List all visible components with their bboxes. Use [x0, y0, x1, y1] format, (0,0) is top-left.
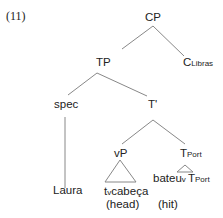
node-tbar: T' [148, 98, 157, 110]
node-bateu: bateuv [153, 172, 186, 186]
gloss-head: (head) [106, 198, 139, 210]
node-laura: Laura [53, 184, 82, 196]
node-spec: spec [54, 98, 78, 110]
example-number: (11) [6, 9, 26, 24]
node-vp: vP [114, 147, 127, 159]
node-tport-2: TPort [188, 172, 210, 186]
gloss-hit: (hit) [158, 198, 178, 210]
node-tport: TPort [180, 147, 202, 161]
node-tp: TP [96, 56, 111, 68]
node-c-libras: CLibras [183, 56, 213, 70]
node-tv-cabeca: tvcabeça [104, 185, 148, 199]
node-cp: CP [145, 11, 161, 23]
